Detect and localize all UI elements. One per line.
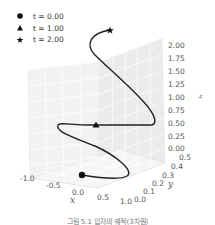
z-tick-label: 0.25 (168, 132, 185, 141)
z-tick-label: 0.75 (168, 106, 185, 115)
z-tick-label: 1.00 (168, 93, 185, 102)
z-tick-label: 2.00 (168, 41, 185, 50)
x-tick-label: -1.0 (20, 174, 35, 183)
z-tick-label: 0.50 (168, 119, 185, 128)
z-axis-label: z (198, 92, 203, 99)
start-marker-circle (79, 172, 85, 178)
z-tick-label: 1.50 (168, 67, 185, 76)
x-tick-label: 0.5 (97, 193, 109, 202)
x-tick-label: 1.0 (120, 197, 132, 206)
end-marker-star (106, 27, 114, 34)
z-axis: 2.00 1.75 1.50 1.25 1.00 0.75 0.50 0.25 … (168, 41, 203, 153)
x-tick-label: -0.5 (46, 181, 61, 190)
triangle-marker-icon (17, 25, 23, 31)
z-tick-label: 1.75 (168, 54, 185, 63)
z-tick-label: 1.25 (168, 80, 185, 89)
y-tick-label: 0.5 (179, 153, 191, 162)
legend-label: t = 0.00 (33, 12, 64, 21)
figure-caption: 그림 5.1 입자의 궤적(3차원) (0, 216, 215, 225)
legend-label: t = 1.00 (33, 24, 64, 33)
legend: t = 0.00 t = 1.00 t = 2.00 (17, 12, 64, 44)
legend-label: t = 2.00 (33, 35, 64, 44)
y-tick-label: 0.4 (171, 162, 183, 171)
3d-line-chart: 2.00 1.75 1.50 1.25 1.00 0.75 0.50 0.25 … (0, 0, 215, 225)
y-axis-label: y (167, 179, 174, 189)
y-tick-label: 0.0 (134, 195, 146, 204)
circle-marker-icon (17, 13, 23, 19)
x-axis-label: x (70, 195, 75, 205)
star-marker-icon (17, 37, 24, 43)
z-tick-label: 0.00 (168, 144, 185, 153)
